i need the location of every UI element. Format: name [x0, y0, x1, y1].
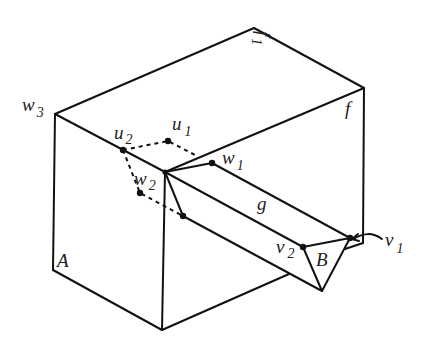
prism-upper-long-edge — [212, 163, 350, 238]
prism-start-top-edge — [165, 163, 212, 172]
point-u1 — [165, 138, 171, 144]
point-u2 — [120, 147, 126, 153]
left-vertical-edge — [53, 114, 55, 270]
top-front-right-edge — [165, 88, 364, 172]
points — [120, 138, 353, 250]
label-B: B — [316, 249, 328, 270]
point-prism-apex — [162, 169, 167, 174]
point-prism-bottom — [180, 213, 186, 219]
box-prism-diagram: w3 f1 f u2 u1 w1 w2 g v2 v1 B A — [0, 0, 421, 346]
prism-start-bottom-edge — [165, 172, 183, 216]
top-back-left-edge — [55, 28, 254, 114]
bottom-left-edge — [53, 270, 162, 330]
top-back-right-edge — [254, 28, 364, 88]
right-vertical-edge — [363, 88, 364, 243]
label-u1: u1 — [172, 113, 192, 139]
prism-lower-long-edge — [183, 216, 322, 291]
label-w3: w3 — [22, 94, 44, 120]
label-f: f — [345, 98, 353, 119]
label-u2: u2 — [114, 122, 133, 147]
point-w1 — [209, 160, 215, 166]
label-v1: v1 — [385, 229, 403, 256]
label-w2: w2 — [134, 168, 156, 193]
label-g: g — [257, 193, 267, 214]
dashed-u2-u1 — [123, 141, 197, 156]
front-vertical-edge — [162, 172, 165, 330]
label-A: A — [55, 250, 69, 271]
bottom-right-edge — [162, 274, 289, 330]
box — [53, 28, 364, 330]
point-w2 — [137, 190, 143, 196]
point-v2 — [300, 244, 306, 250]
prism-g — [165, 163, 350, 291]
top-front-left-edge — [55, 114, 165, 172]
label-f1: f1 — [249, 31, 274, 45]
